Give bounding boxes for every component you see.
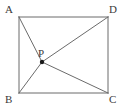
geometry-canvas [0,0,127,110]
vertex-label-b: B [5,94,12,105]
vertex-label-d: D [109,4,117,15]
geometry-figure: A D B C P [0,0,127,110]
vertex-label-c: C [109,94,116,105]
point-P-marker [40,60,44,64]
segment-PD [42,17,108,62]
vertex-label-a: A [5,4,13,15]
point-label-p: P [38,48,44,59]
segment-PB [19,62,42,93]
segment-PC [42,62,108,93]
